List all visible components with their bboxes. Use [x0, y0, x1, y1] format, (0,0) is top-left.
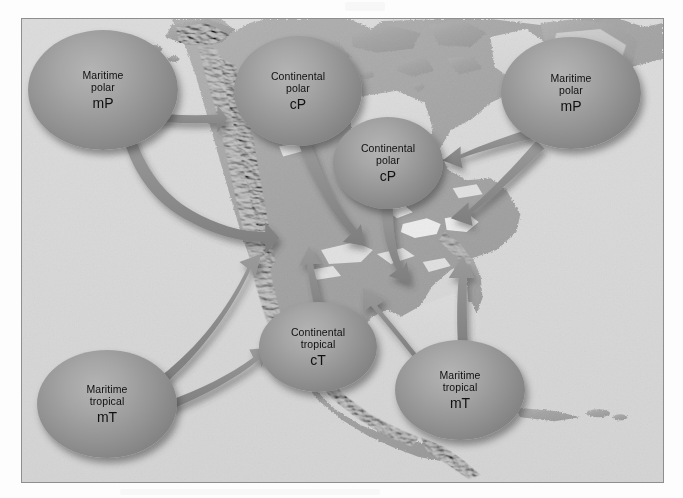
air-mass-line2: tropical — [301, 338, 336, 350]
air-mass-line1: Continental — [361, 142, 415, 154]
air-mass-bubble-mp-pacific[interactable]: Maritime polar mP — [28, 30, 178, 150]
air-mass-line2: tropical — [443, 381, 478, 393]
air-mass-code: cT — [310, 352, 326, 369]
air-mass-bubble-cp-canada[interactable]: Continental polar cP — [234, 36, 362, 146]
air-mass-line2: polar — [286, 82, 310, 94]
air-mass-line1: Continental — [291, 326, 345, 338]
air-mass-bubble-mp-atlantic[interactable]: Maritime polar mP — [501, 37, 641, 149]
air-mass-line1: Maritime — [82, 69, 123, 81]
scan-bleed-bottom — [120, 489, 380, 495]
air-mass-code: mP — [561, 98, 582, 115]
air-mass-code: cP — [380, 168, 396, 185]
air-mass-code: mT — [97, 409, 117, 426]
air-mass-line1: Maritime — [86, 383, 127, 395]
scan-bleed-top — [345, 2, 385, 11]
air-mass-line1: Maritime — [550, 72, 591, 84]
air-mass-code: mT — [450, 395, 470, 412]
air-mass-diagram: Maritime polar mP Continental polar cP C… — [0, 0, 683, 498]
air-mass-bubble-mt-pacific[interactable]: Maritime tropical mT — [37, 350, 177, 458]
air-mass-bubble-cp-hudson[interactable]: Continental polar cP — [333, 117, 443, 209]
air-mass-line2: polar — [376, 154, 400, 166]
air-mass-line2: tropical — [90, 395, 125, 407]
air-mass-line2: polar — [559, 84, 583, 96]
map-plate: Maritime polar mP Continental polar cP C… — [21, 18, 664, 483]
air-mass-bubble-ct-southwest[interactable]: Continental tropical cT — [259, 302, 377, 392]
air-mass-line2: polar — [91, 81, 115, 93]
air-mass-bubble-mt-gulf[interactable]: Maritime tropical mT — [395, 340, 525, 440]
air-mass-code: mP — [93, 95, 114, 112]
air-mass-line1: Maritime — [439, 369, 480, 381]
air-mass-code: cP — [290, 96, 306, 113]
air-mass-line1: Continental — [271, 70, 325, 82]
